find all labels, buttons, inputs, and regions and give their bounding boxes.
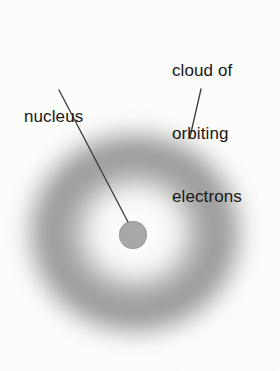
electron-cloud-label-line-1: cloud of [172, 60, 242, 81]
nucleus-label: nucleus [24, 64, 83, 169]
nucleus-label-text: nucleus [24, 106, 83, 127]
electron-cloud-label: cloud of orbiting electrons [172, 18, 242, 249]
electron-cloud-label-line-3: electrons [172, 186, 242, 207]
electron-cloud-label-line-2: orbiting [172, 123, 242, 144]
atom-diagram-figure: nucleus cloud of orbiting electrons [0, 0, 280, 371]
